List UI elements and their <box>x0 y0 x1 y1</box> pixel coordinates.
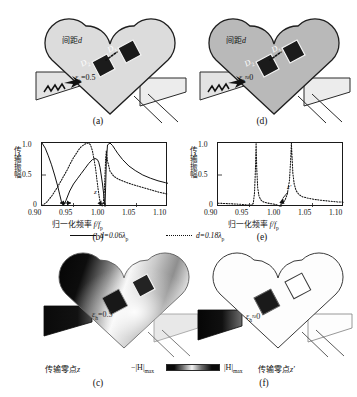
spacing-label-a: 间距d <box>62 34 82 45</box>
epsilon-label-c: εh=0.5 <box>92 310 112 321</box>
transmission-zero-left-caption: 传输零点z <box>45 363 80 374</box>
schematic-a-svg <box>22 10 198 128</box>
y-tick-b-2: 1.0 <box>22 140 32 149</box>
y-axis-title-b: 传输振幅 <box>11 146 22 178</box>
x-tick-e-0: 0.90 <box>204 208 217 217</box>
legend-label-series2: d=0.18λp <box>196 231 224 242</box>
x-tick-b-1: 0.95 <box>59 208 72 217</box>
x-tick-e-1: 0.95 <box>235 208 248 217</box>
colorbar-min-label: −|H|max <box>131 363 154 374</box>
transmission-zero-marker-b <box>98 201 106 207</box>
panel-label-d: (d) <box>242 116 282 126</box>
chart-panel-e: 传输振幅 1.0 0.5 0 z' 0.90 <box>176 128 352 232</box>
panel-label-c: (c) <box>78 378 118 388</box>
legend-label-series1: d=0.06λp <box>100 231 128 242</box>
x-tick-b-2: 1.00 <box>91 208 104 217</box>
series-b-solid <box>42 143 168 206</box>
y-tick-e-1: 0.5 <box>198 170 208 179</box>
z-label-b: z <box>94 188 97 196</box>
y-tick-b-1: 0.5 <box>22 170 32 179</box>
x-tick-e-2: 1.00 <box>267 208 280 217</box>
fieldmap-f-svg <box>190 248 357 358</box>
fieldmap-panel-c: εh=0.5 <box>36 248 212 366</box>
panel-label-a: (a) <box>78 116 118 126</box>
y-tick-e-2: 1.0 <box>198 140 208 149</box>
fieldmap-c-svg <box>36 248 212 358</box>
x-axis-title-e: 归一化频率 f/fp <box>228 218 279 231</box>
plot-curves-b <box>42 143 168 207</box>
legend: d=0.06λp d=0.18λp <box>62 230 294 242</box>
output-waveguide-f <box>302 314 352 357</box>
x-axis-title-b: 归一化频率 f/fp <box>52 218 103 231</box>
colorbar-max-label: |H|max <box>224 363 243 374</box>
spacing-label-d: 间距d <box>226 34 246 45</box>
fieldmap-panel-f: εh≈0 <box>190 248 357 366</box>
input-waveguide-f <box>198 310 242 340</box>
epsilon-label-f: εh≈0 <box>246 312 260 323</box>
z-prime-label-e: z' <box>287 183 291 191</box>
x-tick-e-4: 1.10 <box>329 208 342 217</box>
x-tick-b-3: 1.05 <box>122 208 135 217</box>
transmission-zero-marker-e <box>279 192 288 204</box>
panel-label-f: (f) <box>244 378 284 388</box>
y-axis-title-e: 传输振幅 <box>187 146 198 178</box>
schematic-panel-d: 间距d D1 D2 εh≈0 <box>186 10 357 128</box>
plot-area-e: z' <box>217 142 343 206</box>
schematic-panel-a: 间距d D1 D2 εh=0.5 <box>22 10 198 128</box>
schematic-d-svg <box>186 10 357 128</box>
x-tick-b-0: 0.90 <box>28 208 41 217</box>
legend-swatch-solid <box>70 235 96 236</box>
epsilon-label-a: εh=0.5 <box>75 73 95 84</box>
series-e-dotted <box>218 143 344 206</box>
plot-area-b: z <box>41 142 167 206</box>
x-tick-b-4: 1.10 <box>153 208 166 217</box>
page-cutoff-text: · · · · · · · · · · · · · <box>6 0 256 7</box>
plot-curves-e <box>218 143 344 207</box>
epsilon-label-d: εh≈0 <box>239 73 253 84</box>
chart-panel-b: 传输振幅 1.0 0.5 0 <box>0 128 176 232</box>
field-colorbar <box>166 364 220 371</box>
transmission-zero-right-caption: 传输零点z' <box>258 363 295 374</box>
legend-swatch-dotted <box>166 235 192 236</box>
x-tick-e-3: 1.05 <box>298 208 311 217</box>
